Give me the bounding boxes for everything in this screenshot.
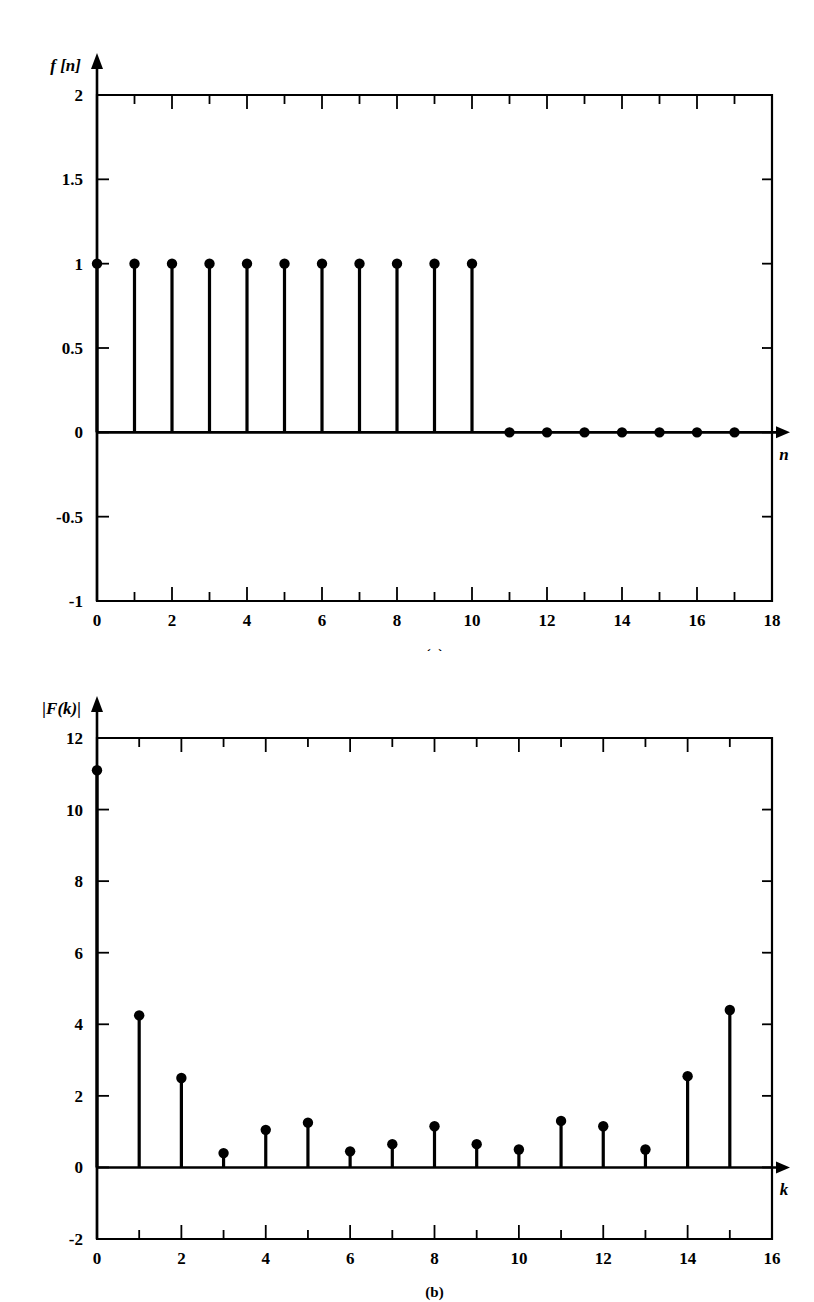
x-axis-title: k (780, 1180, 789, 1199)
x-tick-label: 14 (679, 1249, 697, 1268)
y-tick-label: 0 (75, 423, 84, 442)
stem-marker (617, 427, 627, 437)
stem-plot-a: -1-0.500.511.52024681012141618f [n]n(a) (0, 0, 814, 651)
stem-marker (129, 258, 139, 268)
y-tick-label: 2 (75, 86, 84, 105)
panel-a: -1-0.500.511.52024681012141618f [n]n(a) (0, 0, 814, 651)
x-tick-label: 16 (689, 611, 706, 630)
stem-marker (176, 1073, 186, 1083)
stem-marker (429, 258, 439, 268)
x-tick-label: 12 (539, 611, 556, 630)
x-axis-arrowhead (776, 426, 790, 438)
x-tick-label: 6 (346, 1249, 355, 1268)
stem-marker (134, 1010, 144, 1020)
y-tick-label: -2 (69, 1230, 83, 1249)
x-tick-label: 10 (510, 1249, 527, 1268)
stem-marker (542, 427, 552, 437)
y-tick-label: 4 (75, 1015, 84, 1034)
stem-marker (92, 258, 102, 268)
y-tick-label: 0.5 (62, 339, 83, 358)
x-tick-label: 4 (262, 1249, 271, 1268)
stem-series (92, 765, 735, 1167)
x-tick-label: 8 (393, 611, 402, 630)
y-tick-label: 6 (75, 944, 84, 963)
x-tick-label: 12 (595, 1249, 612, 1268)
figure-container: -1-0.500.511.52024681012141618f [n]n(a) … (0, 0, 814, 1302)
y-tick-label: 10 (66, 801, 83, 820)
y-tick-label: -1 (69, 592, 83, 611)
stem-marker (218, 1148, 228, 1158)
y-axis-arrowhead (91, 696, 103, 712)
y-axis-title: |F(k)| (42, 699, 81, 718)
stem-marker (204, 258, 214, 268)
stem-marker (471, 1139, 481, 1149)
y-tick-label: 2 (75, 1087, 84, 1106)
panel-b: -20246810120246810121416|F(k)|k(b) (0, 651, 814, 1302)
stem-marker (261, 1125, 271, 1135)
stem-marker (579, 427, 589, 437)
stem-marker (317, 258, 327, 268)
stem-marker (514, 1144, 524, 1154)
x-tick-label: 0 (93, 1249, 102, 1268)
stem-marker (303, 1117, 313, 1127)
stem-marker (387, 1139, 397, 1149)
x-tick-label: 4 (243, 611, 252, 630)
y-tick-label: -0.5 (56, 508, 83, 527)
stem-marker (242, 258, 252, 268)
x-tick-label: 2 (168, 611, 177, 630)
stem-marker (354, 258, 364, 268)
y-axis-arrowhead (91, 53, 103, 69)
y-axis-title: f [n] (50, 56, 81, 75)
y-tick-label: 1.5 (62, 170, 83, 189)
stem-marker (598, 1121, 608, 1131)
stem-marker (429, 1121, 439, 1131)
y-tick-label: 12 (66, 729, 83, 748)
x-tick-label: 2 (177, 1249, 186, 1268)
stem-series (92, 258, 740, 437)
stem-marker (167, 258, 177, 268)
stem-marker (279, 258, 289, 268)
x-axis-arrowhead (776, 1161, 790, 1173)
stem-marker (692, 427, 702, 437)
stem-marker (92, 765, 102, 775)
y-tick-label: 1 (75, 255, 84, 274)
stem-marker (345, 1146, 355, 1156)
x-tick-label: 18 (764, 611, 781, 630)
stem-marker (725, 1005, 735, 1015)
stem-marker (504, 427, 514, 437)
stem-marker (467, 258, 477, 268)
y-tick-label: 8 (75, 872, 84, 891)
x-tick-label: 6 (318, 611, 327, 630)
x-tick-label: 0 (93, 611, 102, 630)
x-tick-label: 8 (430, 1249, 439, 1268)
y-tick-label: 0 (75, 1158, 84, 1177)
stem-marker (392, 258, 402, 268)
x-tick-label: 10 (464, 611, 481, 630)
stem-marker (654, 427, 664, 437)
x-axis-title: n (779, 445, 788, 464)
x-tick-label: 14 (614, 611, 632, 630)
stem-marker (556, 1116, 566, 1126)
stem-plot-b: -20246810120246810121416|F(k)|k(b) (0, 651, 814, 1302)
x-tick-label: 16 (764, 1249, 781, 1268)
panel-caption: (b) (425, 1284, 443, 1301)
stem-marker (682, 1071, 692, 1081)
stem-marker (640, 1144, 650, 1154)
stem-marker (729, 427, 739, 437)
